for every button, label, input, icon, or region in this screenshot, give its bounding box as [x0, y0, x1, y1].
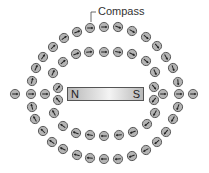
compass-icon	[127, 126, 139, 138]
compass-icon	[48, 107, 61, 120]
compass-icon	[126, 25, 139, 38]
compass-icon	[141, 118, 154, 131]
compass-icon	[149, 66, 161, 78]
compass-icon	[84, 47, 94, 57]
compass-icon	[126, 48, 138, 60]
compass-icon	[85, 153, 95, 163]
compass-icon	[140, 144, 153, 157]
compass-icon	[151, 40, 164, 53]
compass-icon	[37, 51, 50, 64]
bar-magnet: N S	[67, 87, 144, 101]
compass-icon	[158, 89, 167, 98]
compass-icon	[99, 22, 108, 31]
compass-icon	[71, 149, 82, 160]
compass-icon	[114, 130, 124, 140]
label-leader-line	[91, 12, 96, 22]
compass-icon	[174, 89, 183, 98]
compass-icon	[46, 136, 59, 149]
compass-icon	[26, 101, 37, 112]
compass-icon	[57, 56, 70, 69]
compass-icon	[99, 47, 108, 56]
compass-icon	[47, 67, 59, 79]
compass-icon	[26, 75, 37, 86]
compass-icon	[29, 113, 42, 126]
compass-icon	[99, 131, 108, 140]
compass-icon	[140, 31, 153, 44]
compass-icon	[160, 126, 173, 139]
compass-label: Compass	[98, 5, 144, 17]
compass-icon	[173, 77, 183, 87]
compass-icon	[57, 143, 69, 155]
compass-icon	[167, 113, 180, 126]
compass-icon	[70, 127, 82, 139]
compass-icon	[58, 32, 71, 45]
compass-icon	[113, 47, 124, 58]
compass-icon	[57, 120, 70, 133]
compass-icon	[113, 154, 123, 164]
north-pole-label: N	[71, 88, 79, 101]
compass-icon	[148, 81, 161, 94]
compass-icon	[140, 55, 153, 68]
compass-icon	[151, 136, 164, 149]
compass-icon	[70, 48, 82, 60]
compass-icon	[149, 107, 162, 120]
compass-icon	[112, 21, 124, 33]
compass-icon	[172, 101, 184, 113]
compass-icon	[160, 51, 173, 64]
compass-icon	[126, 150, 138, 162]
compass-icon	[99, 154, 108, 163]
magnetic-field-diagram: Compass N S	[0, 0, 209, 173]
compass-icon	[167, 62, 179, 74]
compass-icon	[46, 40, 59, 53]
compass-icon	[188, 89, 197, 98]
compass-icon	[40, 89, 49, 98]
compass-icon	[30, 62, 42, 74]
compass-icon	[10, 89, 19, 98]
south-pole-label: S	[133, 88, 140, 101]
compass-icon	[36, 124, 49, 137]
compass-icon	[52, 94, 65, 107]
compass-icon	[85, 23, 94, 32]
compass-icon	[26, 89, 35, 98]
compass-icon	[52, 82, 65, 95]
compass-icon	[71, 26, 83, 38]
compass-icon	[85, 130, 96, 141]
